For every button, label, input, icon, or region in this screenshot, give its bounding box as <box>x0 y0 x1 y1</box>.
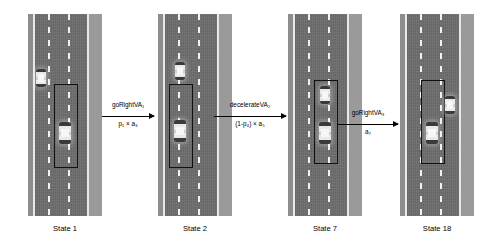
road-surface <box>28 14 102 216</box>
state-label-18: State 18 <box>400 224 474 233</box>
lane-divider-left <box>48 14 50 216</box>
lane-divider-right <box>198 14 200 216</box>
transition-cost-3: a₇ <box>332 126 404 136</box>
transition-cost-2: (1-p₄) × a₅ <box>208 118 292 128</box>
diagram-canvas: State 1 goRightVA₁ p₁ × a₃ State 2 decel… <box>0 0 483 248</box>
road-surface <box>400 14 474 216</box>
transition-label-3: goRightVA₃ <box>332 108 404 118</box>
right-shoulder <box>461 14 474 216</box>
transition-cost-label-3: a₇ <box>332 126 404 136</box>
ego-vehicle <box>59 122 71 144</box>
left-edge-line <box>163 14 165 216</box>
lane-divider-left <box>308 14 310 216</box>
state-label-2: State 2 <box>158 224 232 233</box>
transition-action-3: goRightVA₃ <box>332 108 404 118</box>
left-edge-line <box>293 14 295 216</box>
right-shoulder <box>89 14 102 216</box>
transition-cost-1: p₁ × a₃ <box>96 118 160 128</box>
state-label-1: State 1 <box>28 224 102 233</box>
ego-vehicle <box>426 122 438 144</box>
transition-cost-label-1: p₁ × a₃ <box>96 118 160 128</box>
ego-vehicle <box>319 122 331 144</box>
left-edge-line <box>33 14 35 216</box>
transition-label-1: goRightVA₁ <box>96 100 160 110</box>
other-vehicle <box>36 69 46 87</box>
transition-arrow-1 <box>102 116 154 117</box>
state-label-7: State 7 <box>288 224 362 233</box>
left-edge-line <box>405 14 407 216</box>
ego-vehicle <box>174 120 186 142</box>
transition-arrow-3 <box>338 124 398 125</box>
other-vehicle <box>320 86 330 104</box>
transition-action-1: goRightVA₁ <box>96 100 160 110</box>
transition-label-2: decelerateVA₂ <box>208 100 292 110</box>
other-vehicle <box>445 96 455 114</box>
state-panel-2 <box>158 14 232 216</box>
transition-cost-label-2: (1-p₄) × a₅ <box>208 118 292 128</box>
transition-action-2: decelerateVA₂ <box>208 100 292 110</box>
state-panel-1 <box>28 14 102 216</box>
right-shoulder <box>219 14 232 216</box>
transition-arrow-2 <box>214 116 286 117</box>
state-panel-18 <box>400 14 474 216</box>
road-surface <box>158 14 232 216</box>
other-vehicle <box>175 62 185 80</box>
